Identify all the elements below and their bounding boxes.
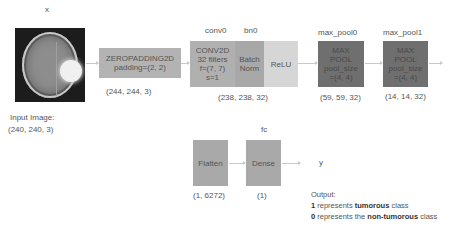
relu-block: ReLU [264,41,298,87]
dense-shape: (1) [257,191,267,200]
pool0-line4: =(4, 4) [329,73,352,82]
flatten-block: Flatten [193,140,228,186]
arrow-pool0-to-pool1 [365,63,382,64]
arrow-dense-to-y [282,163,300,164]
mri-input-image [15,28,85,102]
skull-shape [22,32,78,98]
fc-name-label: fc [261,125,267,134]
pool0-shape: (59, 59, 32) [320,93,361,102]
pool1-line2: POOL [394,55,416,64]
arrow-input-to-pad [86,63,98,64]
output-line2-bold: non-tumorous [367,212,418,221]
bn-line1: Batch [239,55,259,64]
pool1-line4: =(4, 4) [394,73,417,82]
pool1-line1: MAX [397,46,414,55]
conv-block-shape: (238, 238, 32) [218,93,268,102]
pool0-line1: MAX [332,46,349,55]
arrow-pool1-out [429,63,442,64]
conv2d-block: CONV2D 32 filters f=(7, 7) s=1 [190,41,235,87]
dense-label: Dense [252,159,275,168]
output-line2-post: class [418,212,437,221]
conv-title: CONV2D [196,46,229,55]
output-line1-pre: represents [315,201,355,210]
output-heading: Output: [311,189,437,200]
conv-name-label: conv0 [205,26,226,35]
zeropad-title: ZEROPADDING2D [106,54,174,63]
output-line-tumorous: 1 represents tumorous class [311,200,437,211]
pool1-line3: pool_size [389,64,423,73]
tumor-region [60,60,82,82]
conv-stride: s=1 [206,73,219,82]
arrow-flatten-to-dense [229,163,245,164]
brain-midline [56,42,57,96]
output-line2-pre: represents the [315,212,367,221]
zeropadding-block: ZEROPADDING2D padding=(2, 2) [99,48,181,78]
maxpool1-block: MAX POOL pool_size =(4, 4) [383,41,428,87]
input-shape: (240, 240, 3) [8,125,53,134]
batchnorm-block: Batch Norm [235,41,264,87]
flatten-label: Flatten [198,159,222,168]
pool1-shape: (14, 14, 32) [385,92,426,101]
conv-kernel: f=(7, 7) [200,64,226,73]
flatten-shape: (1, 6272) [193,191,225,200]
output-line1-bold: tumorous [355,201,390,210]
maxpool0-block: MAX POOL pool_size =(4, 4) [318,41,364,87]
arrow-relu-to-pool0 [298,63,317,64]
zeropad-shape: (244, 244, 3) [106,87,151,96]
input-var-label: x [45,5,49,14]
pool0-line3: pool_size [324,64,358,73]
bn-line2: Norm [240,64,260,73]
conv-filters: 32 filters [197,55,227,64]
pool1-name-label: max_pool1 [383,28,422,37]
pool0-line2: POOL [330,55,352,64]
output-line-non-tumorous: 0 represents the non-tumorous class [311,211,437,222]
output-var-label: y [319,158,323,167]
zeropad-param: padding=(2, 2) [114,63,166,72]
arrow-pad-to-conv [181,63,189,64]
relu-label: ReLU [271,60,291,69]
output-description: Output: 1 represents tumorous class 0 re… [311,189,437,222]
bn-name-label: bn0 [244,26,257,35]
pool0-name-label: max_pool0 [318,28,357,37]
output-line1-post: class [389,201,408,210]
input-image-label: Input Image: [10,113,54,122]
dense-block: Dense [246,140,281,186]
